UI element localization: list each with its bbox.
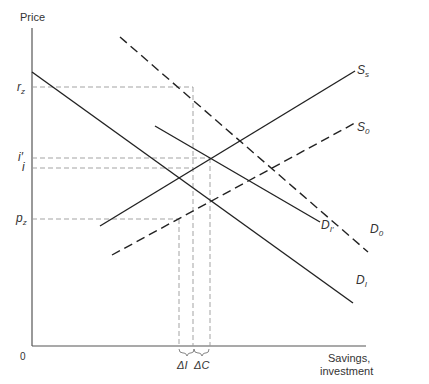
- curve-label-D0: D0: [370, 222, 384, 238]
- x-axis-label-line1: Savings,: [328, 352, 370, 364]
- curve-label-DI: DI: [356, 273, 368, 289]
- price-label-i: i: [22, 160, 25, 174]
- brace-delta-c: [194, 349, 209, 356]
- price-label-pz: pz: [15, 211, 27, 227]
- curve-DI: [32, 72, 353, 303]
- delta-c-label: ΔC: [193, 359, 209, 371]
- origin-label: 0: [20, 351, 26, 362]
- savings-investment-diagram: Price 0 Savings, investment rz i′ i pz S…: [0, 0, 429, 384]
- curve-DIprime: [155, 126, 320, 222]
- curve-S0: [112, 123, 355, 255]
- price-label-rz: rz: [17, 80, 25, 96]
- y-axis-label: Price: [20, 11, 45, 23]
- brace-delta-i: [179, 349, 194, 356]
- curve-label-S0: S0: [357, 120, 370, 136]
- x-axis-label-line2: investment: [320, 365, 373, 377]
- curve-D0: [120, 37, 368, 252]
- curve-label-Ss: Ss: [357, 63, 369, 79]
- delta-i-label: ΔI: [176, 359, 187, 371]
